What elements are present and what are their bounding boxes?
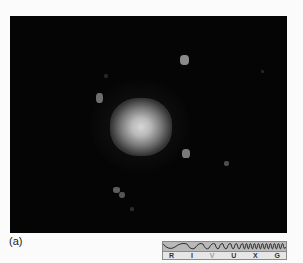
band-xray: X [253,252,258,259]
point-source [180,55,189,65]
astronomical-image [10,16,287,233]
figure-label: (a) [9,235,22,247]
point-source [104,74,108,78]
point-source [119,192,125,198]
band-visible: V [210,252,215,259]
point-source [130,207,134,211]
wave-icon [163,242,286,251]
point-source [182,149,190,158]
point-source [224,161,229,166]
band-letters: R I V U X G [163,251,286,259]
band-gamma: G [274,252,279,259]
point-source [261,70,264,73]
galaxy-core [110,98,172,156]
band-ultraviolet: U [231,252,236,259]
point-source [96,93,103,103]
band-infrared: I [191,252,193,259]
spectrum-band-indicator: R I V U X G [162,241,287,260]
band-radio: R [169,252,174,259]
